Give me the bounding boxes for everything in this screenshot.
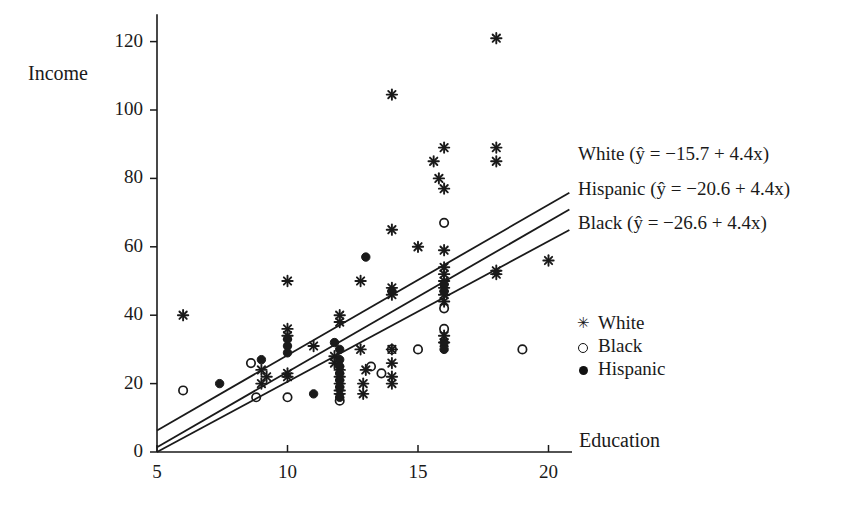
marker-circle-filled	[440, 345, 448, 353]
marker-asterisk	[256, 365, 266, 375]
marker-asterisk	[387, 89, 397, 99]
x-tick-label: 20	[531, 461, 567, 483]
marker-circle-open	[377, 369, 385, 377]
marker-circle-filled	[283, 349, 291, 357]
marker-asterisk	[491, 33, 501, 43]
marker-asterisk	[178, 310, 188, 320]
marker-circle-filled	[215, 379, 223, 387]
marker-circle-open	[179, 386, 187, 394]
fit-equation-black: Black (ŷ = −26.6 + 4.4x)	[578, 212, 767, 234]
marker-circle-filled	[309, 390, 317, 398]
marker-asterisk	[387, 358, 397, 368]
legend-entry-hispanic: Hispanic	[572, 358, 666, 380]
marker-asterisk	[358, 389, 368, 399]
marker-circle-filled	[440, 287, 448, 295]
x-tick-label: 5	[139, 461, 175, 483]
marker-circle-filled	[336, 393, 344, 401]
x-axis-label: Education	[579, 429, 660, 452]
marker-asterisk	[439, 245, 449, 255]
marker-asterisk	[491, 142, 501, 152]
y-tick-label: 40	[99, 303, 143, 325]
y-tick-label: 60	[99, 235, 143, 257]
marker-circle-filled	[362, 253, 370, 261]
fit-line-hispanic	[157, 209, 569, 447]
y-tick-label: 100	[99, 98, 143, 120]
x-tick-label: 10	[270, 461, 306, 483]
marker-circle-filled	[257, 355, 265, 363]
marker-circle-open	[247, 359, 255, 367]
marker-asterisk	[355, 344, 365, 354]
marker-circle-open	[518, 345, 526, 353]
marker-asterisk	[543, 255, 553, 265]
marker-circle-filled	[336, 345, 344, 353]
y-tick-label: 0	[99, 440, 143, 462]
marker-circle-open	[283, 393, 291, 401]
marker-circle-filled	[336, 383, 344, 391]
marker-asterisk	[413, 242, 423, 252]
data-points	[178, 33, 554, 405]
marker-asterisk	[282, 368, 292, 378]
marker-asterisk	[434, 173, 444, 183]
legend-label: Hispanic	[594, 358, 666, 380]
marker-asterisk	[387, 378, 397, 388]
marker-asterisk	[282, 276, 292, 286]
marker-asterisk	[261, 372, 271, 382]
marker-circle-open	[440, 219, 448, 227]
circle-filled-icon	[572, 358, 594, 380]
y-tick-label: 120	[99, 30, 143, 52]
legend-entry-white: ✳White	[572, 312, 644, 334]
scatter-plot-figure: Income Education 0204060801001205101520 …	[0, 0, 847, 518]
fit-equation-white: White (ŷ = −15.7 + 4.4x)	[578, 143, 769, 165]
legend-label: Black	[594, 335, 642, 357]
marker-asterisk	[439, 183, 449, 193]
marker-circle-open	[414, 345, 422, 353]
marker-asterisk	[439, 142, 449, 152]
circle-open-icon	[572, 335, 594, 357]
marker-asterisk	[335, 310, 345, 320]
marker-asterisk	[491, 269, 501, 279]
legend-label: White	[594, 312, 644, 334]
fit-line-black	[157, 230, 569, 452]
y-tick-label: 20	[99, 372, 143, 394]
x-tick-label: 15	[400, 461, 436, 483]
marker-asterisk	[355, 276, 365, 286]
legend-entry-black: Black	[572, 335, 642, 357]
marker-asterisk	[358, 378, 368, 388]
marker-asterisk	[387, 225, 397, 235]
asterisk-icon: ✳	[572, 314, 594, 332]
marker-asterisk	[491, 156, 501, 166]
regression-lines	[157, 193, 569, 452]
marker-asterisk	[308, 341, 318, 351]
marker-asterisk	[428, 156, 438, 166]
y-tick-label: 80	[99, 166, 143, 188]
fit-equation-hispanic: Hispanic (ŷ = −20.6 + 4.4x)	[578, 178, 790, 200]
marker-asterisk	[256, 378, 266, 388]
marker-circle-filled	[388, 287, 396, 295]
y-axis-label: Income	[28, 62, 88, 85]
